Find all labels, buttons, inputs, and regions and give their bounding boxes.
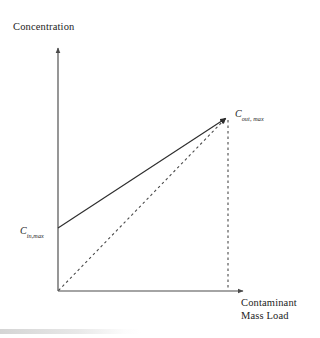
c-in-max-variable: C — [20, 225, 27, 236]
dashed-operating-line — [59, 119, 226, 291]
c-out-max-subscript: out, max — [242, 115, 264, 122]
c-out-max-label: Cout, max — [235, 103, 264, 122]
c-out-max-variable: C — [235, 108, 242, 119]
y-axis-title: Concentration — [13, 21, 74, 34]
c-in-max-label: Cin,max — [20, 220, 44, 239]
x-axis-title: Contaminant Mass Load — [241, 297, 297, 322]
scan-artifact-band — [0, 329, 141, 334]
concentration-mass-load-figure: Concentration Contaminant Mass Load Cin,… — [0, 0, 320, 338]
c-in-max-subscript: in,max — [27, 232, 44, 239]
solid-operating-line — [58, 119, 226, 229]
plot-area — [0, 0, 320, 338]
